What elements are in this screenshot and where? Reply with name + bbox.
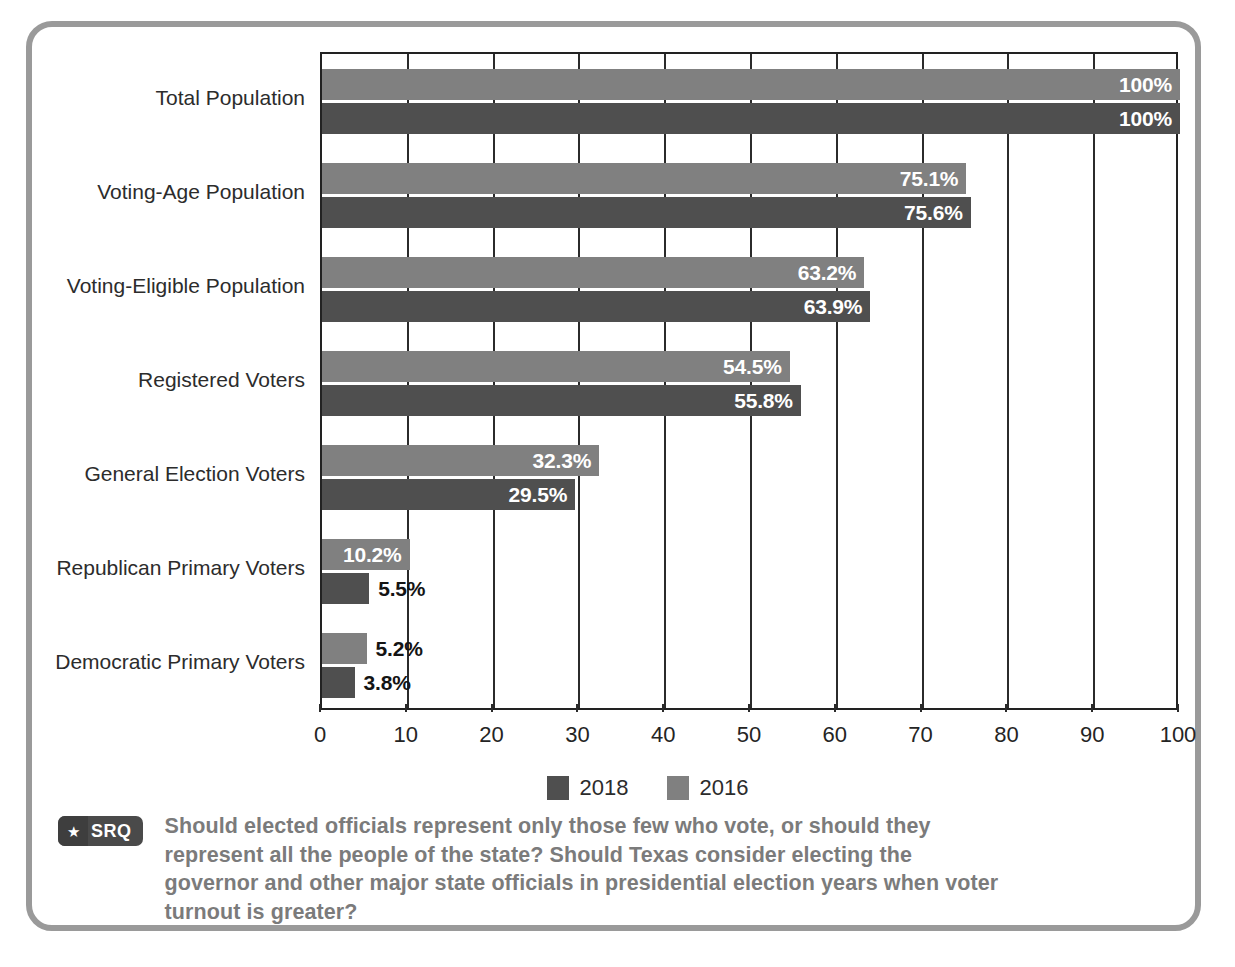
x-tick-mark [1091, 704, 1093, 712]
gridline [1093, 54, 1095, 708]
bar-2016: 100% [322, 69, 1180, 100]
bar-2016: 54.5% [322, 351, 790, 382]
bar-value-label: 100% [1119, 69, 1172, 100]
bar-value-label: 63.2% [798, 257, 857, 288]
bar-2016: 10.2% [322, 539, 410, 570]
x-tick-label: 90 [1080, 722, 1104, 748]
bar-value-label: 5.5% [378, 573, 425, 604]
bar-value-label: 10.2% [343, 539, 402, 570]
x-tick-mark [834, 704, 836, 712]
bar-value-label: 75.6% [904, 197, 963, 228]
x-tick-mark [920, 704, 922, 712]
bar-2016: 63.2% [322, 257, 864, 288]
x-tick-label: 60 [823, 722, 847, 748]
srq-badge-label: SRQ [88, 816, 143, 846]
plot-area: 100%100%75.1%75.6%63.2%63.9%54.5%55.8%32… [320, 52, 1178, 710]
bar-2018: 3.8% [322, 667, 355, 698]
srq-question-text: Should elected officials represent only … [165, 812, 1005, 926]
legend-label: 2018 [580, 775, 629, 801]
x-tick-label: 10 [394, 722, 418, 748]
srq-badge: ★ SRQ [58, 816, 143, 846]
bar-2016: 75.1% [322, 163, 966, 194]
bar-value-label: 75.1% [900, 163, 959, 194]
x-tick-mark [319, 704, 321, 712]
y-axis-category-labels: Total PopulationVoting-Age PopulationVot… [0, 52, 305, 710]
x-tick-mark [1177, 704, 1179, 712]
category-label: Total Population [5, 86, 305, 110]
bar-value-label: 55.8% [734, 385, 793, 416]
legend-label: 2016 [700, 775, 749, 801]
x-tick-label: 100 [1160, 722, 1197, 748]
x-tick-mark [576, 704, 578, 712]
x-axis: 0102030405060708090100 [320, 712, 1178, 752]
srq-callout: ★ SRQ Should elected officials represent… [58, 812, 1138, 926]
x-tick-mark [491, 704, 493, 712]
bar-value-label: 32.3% [533, 445, 592, 476]
bar-value-label: 63.9% [804, 291, 863, 322]
bar-value-label: 100% [1119, 103, 1172, 134]
x-tick-mark [748, 704, 750, 712]
legend-item-2016: 2016 [667, 775, 749, 801]
x-tick-label: 80 [994, 722, 1018, 748]
gridline [1007, 54, 1009, 708]
bar-value-label: 54.5% [723, 351, 782, 382]
x-tick-label: 50 [737, 722, 761, 748]
bar-value-label: 5.2% [376, 633, 423, 664]
bar-chart: Total PopulationVoting-Age PopulationVot… [0, 0, 1235, 760]
legend-swatch [667, 776, 689, 800]
bar-value-label: 3.8% [364, 667, 411, 698]
category-label: General Election Voters [5, 462, 305, 486]
bar-2018: 63.9% [322, 291, 870, 322]
x-tick-label: 0 [314, 722, 326, 748]
legend-swatch [547, 776, 569, 800]
category-label: Registered Voters [5, 368, 305, 392]
legend-item-2018: 2018 [547, 775, 629, 801]
bar-2016: 32.3% [322, 445, 599, 476]
x-tick-label: 70 [908, 722, 932, 748]
bar-2018: 75.6% [322, 197, 971, 228]
bar-2016: 5.2% [322, 633, 367, 664]
bar-2018: 55.8% [322, 385, 801, 416]
star-icon: ★ [58, 816, 88, 846]
category-label: Republican Primary Voters [5, 556, 305, 580]
gridline [836, 54, 838, 708]
bar-2018: 5.5% [322, 573, 369, 604]
chart-legend: 20182016 [0, 768, 1235, 808]
category-label: Voting-Age Population [5, 180, 305, 204]
x-tick-label: 30 [565, 722, 589, 748]
x-tick-mark [662, 704, 664, 712]
x-tick-mark [405, 704, 407, 712]
category-label: Voting-Eligible Population [5, 274, 305, 298]
bar-value-label: 29.5% [509, 479, 568, 510]
x-tick-label: 40 [651, 722, 675, 748]
x-tick-mark [1005, 704, 1007, 712]
bar-2018: 100% [322, 103, 1180, 134]
x-tick-label: 20 [479, 722, 503, 748]
gridline [922, 54, 924, 708]
bar-2018: 29.5% [322, 479, 575, 510]
category-label: Democratic Primary Voters [5, 650, 305, 674]
